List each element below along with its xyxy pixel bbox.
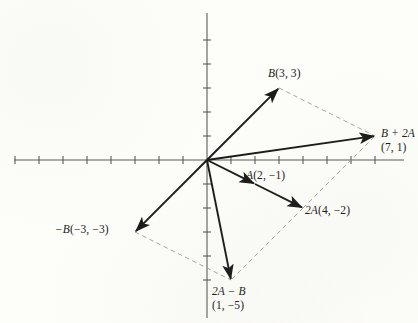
label-2a-symbol: 2A bbox=[305, 204, 318, 216]
label-vector-b-plus-2a: B + 2A (7, 1) bbox=[381, 126, 415, 154]
vector-plot-svg bbox=[0, 0, 418, 323]
vector-arrow-b bbox=[207, 89, 278, 160]
vector-arrow--b bbox=[136, 160, 207, 231]
label-vector-2a-minus-b: 2A − B (1, −5) bbox=[212, 284, 246, 312]
dashed-segment-2A-to-diff bbox=[231, 208, 303, 280]
dashed-segment-B-to-sum bbox=[279, 88, 375, 136]
vector-diagram-figure: B(3, 3) B + 2A (7, 1) A(2, −1) 2A(4, −2)… bbox=[0, 0, 418, 323]
label-sum-line2: (7, 1) bbox=[381, 140, 415, 154]
label-sum-line1: B + 2A bbox=[381, 126, 415, 140]
label-vector-b: B(3, 3) bbox=[268, 66, 301, 80]
vector-arrow-b-2a bbox=[207, 136, 374, 160]
label-diff-line2: (1, −5) bbox=[212, 298, 246, 312]
label-vector-a: A(2, −1) bbox=[246, 168, 285, 182]
label-vector-negative-b: −B(−3, −3) bbox=[55, 222, 109, 236]
dashed-segment-2A-to-sum bbox=[303, 136, 375, 208]
label-negb-coords: (−3, −3) bbox=[70, 223, 109, 235]
label-b-coords: (3, 3) bbox=[275, 67, 301, 79]
label-negb-symbol: −B bbox=[55, 223, 70, 235]
label-vector-2a: 2A(4, −2) bbox=[305, 203, 350, 217]
vector-arrow-2a bbox=[255, 184, 302, 207]
label-diff-line1: 2A − B bbox=[212, 284, 246, 298]
dashed-segment-negB-to-diff bbox=[135, 232, 231, 280]
vector-arrow-2a-b bbox=[207, 160, 231, 279]
label-2a-coords: (4, −2) bbox=[318, 204, 350, 216]
label-a-coords: (2, −1) bbox=[253, 169, 285, 181]
